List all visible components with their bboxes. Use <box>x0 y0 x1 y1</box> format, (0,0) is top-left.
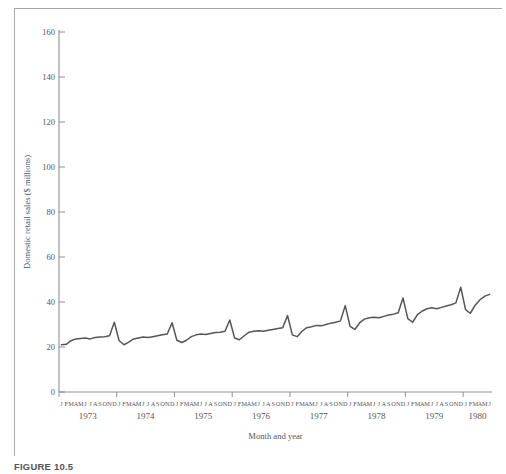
year-label: 1979 <box>425 411 444 421</box>
year-label: 1975 <box>194 411 213 421</box>
month-letter: J <box>407 400 410 407</box>
month-letter: M <box>78 400 84 407</box>
x-axis-month-labels: JFMAMJJASONDJFMAMJJASONDJFMAMJJASONDJFMA… <box>60 400 491 407</box>
y-axis-title: Domestic retail sales ($ millions) <box>22 155 32 269</box>
month-letter: A <box>93 400 98 407</box>
month-letter: D <box>343 400 348 407</box>
month-letter: J <box>291 400 294 407</box>
month-letter: A <box>324 400 329 407</box>
month-letter: D <box>459 400 464 407</box>
year-label: 1977 <box>310 411 329 421</box>
month-letter: J <box>258 400 261 407</box>
month-letter: J <box>431 400 434 407</box>
month-letter: J <box>320 400 323 407</box>
y-tick-label: 120 <box>42 117 55 127</box>
x-axis-ticks <box>59 392 463 397</box>
year-label: 1976 <box>252 411 271 421</box>
month-letter: J <box>488 400 491 407</box>
month-letter: J <box>378 400 381 407</box>
y-tick-label: 140 <box>42 72 55 82</box>
month-letter: J <box>349 400 352 407</box>
month-letter: J <box>233 400 236 407</box>
year-label: 1973 <box>79 411 98 421</box>
month-letter: A <box>151 400 156 407</box>
month-letter: J <box>373 400 376 407</box>
y-tick-label: 0 <box>51 387 55 397</box>
month-letter: M <box>367 400 373 407</box>
y-tick-label: 160 <box>42 27 55 37</box>
month-letter: J <box>464 400 467 407</box>
month-letter: J <box>147 400 150 407</box>
month-letter: J <box>200 400 203 407</box>
month-letter: M <box>136 400 142 407</box>
month-letter: J <box>89 400 92 407</box>
x-axis-year-labels: 19731974197519761977197819791980 <box>79 411 487 421</box>
y-tick-label: 100 <box>42 162 55 172</box>
y-axis-tick-labels: 020406080100120140160 <box>42 27 55 397</box>
month-letter: J <box>436 400 439 407</box>
month-letter: D <box>228 400 233 407</box>
month-letter: J <box>118 400 121 407</box>
y-axis-ticks <box>59 32 65 392</box>
month-letter: A <box>382 400 387 407</box>
year-label: 1980 <box>469 411 488 421</box>
month-letter: J <box>176 400 179 407</box>
month-letter: J <box>60 400 63 407</box>
month-letter: D <box>112 400 117 407</box>
month-letter: J <box>315 400 318 407</box>
y-tick-label: 40 <box>47 297 56 307</box>
data-series-line <box>61 287 489 345</box>
month-letter: J <box>262 400 265 407</box>
month-letter: A <box>208 400 213 407</box>
month-letter: M <box>482 400 488 407</box>
chart-area: 020406080100120140160 JFMAMJJASONDJFMAMJ… <box>0 0 506 458</box>
y-tick-label: 20 <box>47 342 56 352</box>
month-letter: M <box>309 400 315 407</box>
month-letter: A <box>266 400 271 407</box>
year-label: 1974 <box>137 411 156 421</box>
month-letter: A <box>439 400 444 407</box>
figure-caption: FIGURE 10.5 <box>14 461 134 474</box>
x-axis-title: Month and year <box>248 431 303 441</box>
month-letter: M <box>193 400 199 407</box>
month-letter: D <box>285 400 290 407</box>
month-letter: D <box>170 400 175 407</box>
month-letter: M <box>251 400 257 407</box>
year-label: 1978 <box>368 411 387 421</box>
month-letter: J <box>205 400 208 407</box>
month-letter: J <box>84 400 87 407</box>
month-letter: D <box>401 400 406 407</box>
month-letter: J <box>142 400 145 407</box>
retail-sales-line-chart: 020406080100120140160 JFMAMJJASONDJFMAMJ… <box>0 0 506 458</box>
month-letter: M <box>424 400 430 407</box>
y-tick-label: 80 <box>47 207 56 217</box>
y-tick-label: 60 <box>47 252 56 262</box>
